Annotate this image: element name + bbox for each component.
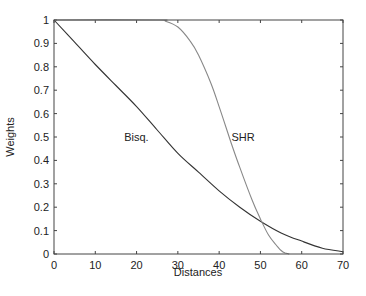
y-tick-label: 0.1 [34, 225, 49, 237]
y-tick-label: 0.2 [34, 201, 49, 213]
x-tick-label: 60 [296, 259, 308, 271]
curve-label: Bisq. [124, 131, 148, 143]
x-tick-label: 70 [337, 259, 349, 271]
annotations: Bisq.SHR [124, 131, 255, 143]
x-tick-label: 20 [130, 259, 142, 271]
tick-labels: 01020304050607000.10.20.30.40.50.60.70.8… [34, 14, 349, 271]
y-tick-label: 0.6 [34, 108, 49, 120]
y-tick-label: 1 [43, 14, 49, 26]
y-tick-label: 0.7 [34, 84, 49, 96]
y-tick-label: 0.4 [34, 154, 49, 166]
x-tick-label: 10 [89, 259, 101, 271]
chart: 01020304050607000.10.20.30.40.50.60.70.8… [0, 0, 366, 296]
y-tick-label: 0 [43, 248, 49, 260]
y-tick-label: 0.3 [34, 178, 49, 190]
y-tick-label: 0.5 [34, 131, 49, 143]
y-axis-label: Weights [4, 117, 16, 157]
y-tick-label: 0.9 [34, 37, 49, 49]
y-tick-label: 0.8 [34, 61, 49, 73]
x-tick-label: 0 [51, 259, 57, 271]
curve-label: SHR [232, 131, 255, 143]
curves [54, 20, 343, 254]
x-tick-label: 50 [254, 259, 266, 271]
x-axis-label: Distances [174, 266, 223, 278]
